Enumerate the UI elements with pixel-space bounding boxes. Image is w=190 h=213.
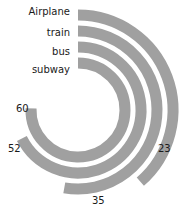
ring-arc-subway[interactable] (31, 63, 125, 157)
value-label-airplane: 23 (158, 144, 171, 154)
radial-bar-chart: Airplane train bus subway 23 35 52 60 (0, 0, 190, 213)
category-label-bus: bus (8, 47, 70, 57)
category-label-train: train (8, 28, 70, 38)
category-label-airplane: Airplane (8, 7, 70, 17)
value-label-train: 35 (92, 196, 105, 206)
value-label-subway: 60 (16, 104, 29, 114)
ring-group-subway (31, 63, 125, 157)
value-label-bus: 52 (8, 144, 21, 154)
category-label-subway: subway (8, 65, 70, 75)
